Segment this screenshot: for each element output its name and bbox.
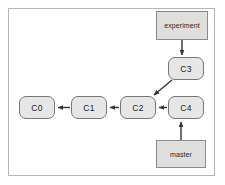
commit-node-c0-label: C0 (31, 103, 42, 113)
commit-node-c2[interactable]: C2 (120, 96, 156, 119)
commit-node-c3[interactable]: C3 (168, 57, 204, 80)
commit-node-c2-label: C2 (132, 103, 143, 113)
ref-label-experiment-text: experiment (164, 22, 200, 29)
ref-label-experiment[interactable]: experiment (156, 11, 208, 40)
commit-node-c4[interactable]: C4 (168, 96, 204, 119)
commit-node-c1[interactable]: C1 (71, 96, 107, 119)
edge-c3-to-c2 (154, 80, 172, 95)
commit-node-c4-label: C4 (180, 103, 191, 113)
commit-node-c3-label: C3 (180, 64, 191, 74)
ref-label-master[interactable]: master (156, 140, 206, 168)
commit-node-c1-label: C1 (83, 103, 94, 113)
git-commit-graph-diagram: experiment C3 C0 C1 C2 C4 master (0, 0, 225, 185)
ref-label-master-text: master (170, 151, 192, 158)
commit-node-c0[interactable]: C0 (19, 96, 55, 119)
